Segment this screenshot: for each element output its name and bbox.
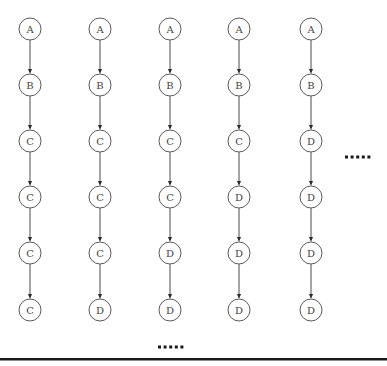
arrowhead-icon [168,294,172,299]
chains-diagram: ABCCCCABCCCDABCCDDABCDDDABDDDD [0,0,387,366]
arrowhead-icon [168,125,172,130]
edge-arrow [28,208,32,242]
node-c: C [19,186,41,208]
arrowhead-icon [309,125,313,130]
ellipsis-bottom [158,346,183,349]
node-c: C [19,242,41,264]
arrowhead-icon [237,294,241,299]
arrowhead-icon [98,294,102,299]
node-c: C [19,130,41,152]
edge-arrow [237,40,241,74]
arrowhead-icon [28,237,32,242]
arrowhead-icon [168,237,172,242]
node-label: D [96,305,104,316]
edge-arrow [168,96,172,130]
node-label: D [166,305,174,316]
edge-arrow [237,152,241,186]
node-label: A [306,24,315,35]
chain-5: ABDDDD [300,18,322,321]
node-d: D [300,186,322,208]
node-label: C [96,136,104,147]
chain-3: ABCCDD [159,18,181,321]
edge-arrow [98,152,102,186]
arrowhead-icon [168,181,172,186]
horizontal-rule [0,358,387,361]
node-d: D [159,242,181,264]
arrowhead-icon [237,181,241,186]
arrowhead-icon [309,69,313,74]
node-label: C [26,248,34,259]
arrowhead-icon [28,69,32,74]
node-label: C [26,136,34,147]
edge-arrow [28,96,32,130]
node-label: C [166,192,174,203]
node-a: A [159,18,181,40]
node-label: C [96,248,104,259]
node-b: B [19,74,41,96]
arrowhead-icon [98,237,102,242]
node-label: D [235,192,243,203]
arrowhead-icon [309,237,313,242]
node-label: C [166,136,174,147]
node-b: B [159,74,181,96]
edge-arrow [28,152,32,186]
edge-arrow [98,96,102,130]
node-c: C [89,130,111,152]
edge-arrow [237,264,241,299]
node-d: D [228,186,250,208]
edge-arrow [309,264,313,299]
node-b: B [300,74,322,96]
node-b: B [228,74,250,96]
edge-arrow [168,264,172,299]
arrowhead-icon [237,69,241,74]
arrowhead-icon [98,125,102,130]
node-label: B [235,80,242,91]
node-label: D [307,192,315,203]
arrowhead-icon [28,181,32,186]
node-label: C [26,305,34,316]
edge-arrow [309,208,313,242]
node-d: D [228,299,250,321]
node-label: A [234,24,243,35]
node-d: D [300,130,322,152]
chain-4: ABCDDD [228,18,250,321]
node-label: D [235,305,243,316]
arrowhead-icon [309,181,313,186]
node-a: A [228,18,250,40]
node-label: B [26,80,33,91]
node-label: D [166,248,174,259]
node-c: C [89,186,111,208]
edge-arrow [309,152,313,186]
node-d: D [300,299,322,321]
node-label: D [307,136,315,147]
node-label: D [235,248,243,259]
arrowhead-icon [309,294,313,299]
node-c: C [159,130,181,152]
node-label: D [307,305,315,316]
edge-arrow [237,208,241,242]
node-d: D [228,242,250,264]
node-a: A [89,18,111,40]
node-c: C [89,242,111,264]
edge-arrow [28,40,32,74]
node-label: A [25,24,34,35]
node-a: A [300,18,322,40]
node-label: B [166,80,173,91]
node-label: B [307,80,314,91]
edge-arrow [168,40,172,74]
arrowhead-icon [237,125,241,130]
node-c: C [19,299,41,321]
node-label: D [307,248,315,259]
edge-arrow [168,152,172,186]
edge-arrow [309,96,313,130]
node-d: D [159,299,181,321]
arrowhead-icon [98,181,102,186]
node-label: C [96,192,104,203]
chain-2: ABCCCD [89,18,111,321]
edge-arrow [28,264,32,299]
edge-arrow [237,96,241,130]
node-label: C [235,136,243,147]
node-b: B [89,74,111,96]
node-label: A [95,24,104,35]
arrowhead-icon [168,69,172,74]
